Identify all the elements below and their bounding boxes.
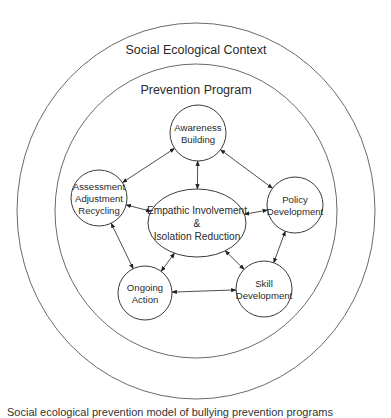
node-empathic-label: Isolation Reduction — [154, 231, 241, 242]
node-policy-label: Development — [267, 206, 324, 217]
arrow-ongoing-skill — [172, 290, 236, 292]
social-ecological-context-label: Social Ecological Context — [125, 43, 267, 57]
arrow-policy-empathic — [244, 210, 267, 214]
node-assessment: AssessmentAdjustmentRecycling — [71, 170, 127, 226]
node-skill-label: Skill — [255, 278, 273, 289]
node-skill: SkillDevelopment — [236, 261, 293, 317]
prevention-program-label: Prevention Program — [140, 83, 251, 97]
node-awareness-label: Awareness — [174, 122, 221, 133]
node-policy-label: Policy — [282, 194, 308, 205]
node-assessment-label: Adjustment — [75, 193, 123, 204]
node-empathic: Empathic Involvement&Isolation Reduction — [147, 189, 247, 257]
node-empathic-label: & — [194, 218, 201, 229]
node-assessment-label: Recycling — [78, 205, 120, 216]
arrow-awareness-assessment — [122, 148, 174, 182]
arrow-empathic-skill — [225, 251, 244, 270]
node-awareness: AwarenessBuilding — [170, 105, 226, 161]
arrow-policy-skill — [274, 231, 286, 262]
arrow-assessment-ongoing — [111, 223, 133, 269]
nodes-layer: AwarenessBuildingAssessmentAdjustmentRec… — [71, 105, 324, 320]
node-empathic-label: Empathic Involvement — [147, 205, 247, 216]
figure-caption: Social ecological prevention model of bu… — [7, 406, 333, 418]
node-ongoing-label: Action — [132, 294, 159, 305]
node-awareness-label: Building — [181, 134, 215, 145]
arrow-empathic-ongoing — [161, 253, 174, 271]
node-assessment-label: Assessment — [73, 181, 126, 192]
node-policy: PolicyDevelopment — [267, 177, 324, 233]
node-ongoing: OngoingAction — [118, 266, 172, 320]
node-skill-label: Development — [236, 290, 293, 301]
node-ongoing-label: Ongoing — [127, 282, 163, 293]
arrow-awareness-policy — [221, 150, 273, 189]
